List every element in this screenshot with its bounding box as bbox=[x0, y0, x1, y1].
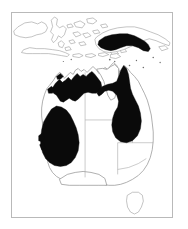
map-svg bbox=[12, 13, 172, 217]
landmass-tasmania bbox=[127, 192, 144, 214]
landmass-java bbox=[22, 48, 69, 57]
landmass-sulawesi bbox=[51, 17, 67, 48]
landmass-borneo bbox=[14, 22, 48, 38]
map-frame bbox=[11, 12, 173, 218]
figure-root bbox=[0, 0, 188, 229]
